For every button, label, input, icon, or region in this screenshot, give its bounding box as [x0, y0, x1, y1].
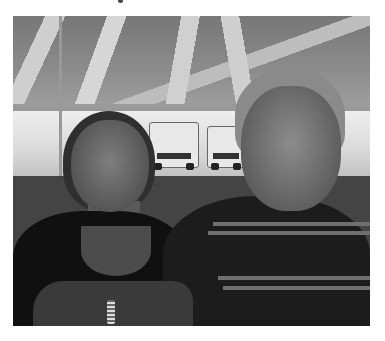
shirt-stripe — [213, 222, 370, 226]
woman-chest — [81, 226, 151, 276]
truck-grill — [157, 153, 191, 159]
wristwatch — [107, 300, 115, 324]
truck-wheel — [154, 163, 162, 170]
man-shirt — [163, 196, 370, 326]
shirt-stripe — [218, 276, 370, 280]
truck-wheel — [233, 163, 241, 170]
truck-left — [149, 122, 199, 168]
truck-wheel — [211, 163, 219, 170]
cropped-caption-text — [118, 0, 124, 3]
shirt-stripe — [208, 231, 370, 235]
truck-grill — [213, 153, 238, 159]
woman-face — [71, 120, 149, 212]
man-face — [241, 86, 341, 211]
truck-wheel — [186, 163, 194, 170]
shirt-stripe — [223, 286, 370, 290]
photo — [13, 16, 370, 326]
text-descender — [118, 0, 123, 3]
